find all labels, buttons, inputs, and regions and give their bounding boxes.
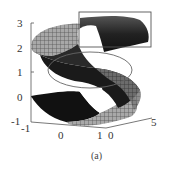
svg-text:0: 0 [108, 129, 114, 141]
s-curve-figure: 3 2 1 0 -1 -1 0 1 0 5 (a) [0, 0, 170, 174]
svg-text:0: 0 [17, 91, 23, 103]
svg-text:1: 1 [17, 66, 23, 78]
svg-text:-1: -1 [11, 115, 20, 127]
svg-text:0: 0 [58, 129, 64, 141]
figure-caption: (a) [91, 150, 102, 162]
svg-text:5: 5 [151, 116, 157, 128]
svg-text:2: 2 [17, 42, 23, 54]
svg-text:1: 1 [97, 129, 103, 141]
svg-text:3: 3 [17, 17, 23, 29]
svg-text:-1: -1 [21, 122, 30, 134]
z-tick-labels: 3 2 1 0 -1 [11, 17, 23, 127]
